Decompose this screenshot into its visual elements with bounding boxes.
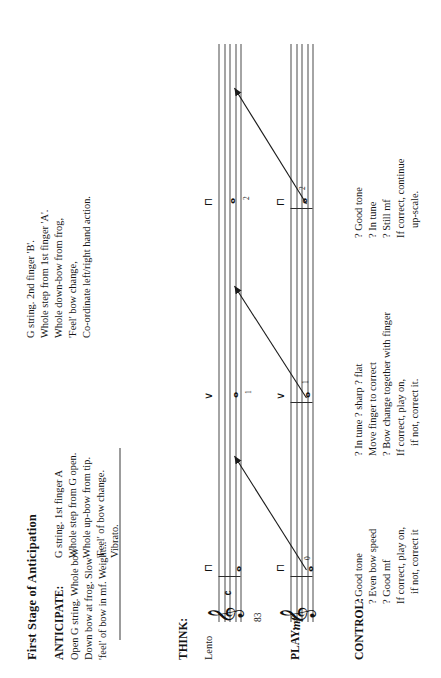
fingering-0: 0: [303, 556, 311, 560]
whole-note-a: 𝅝: [225, 392, 241, 398]
control-g-line-5: if not, correct it: [408, 529, 420, 594]
control-g-line-2: ? Even bow speed: [366, 529, 378, 604]
staff-line: [296, 44, 297, 622]
control-b-line-4: If correct, continue: [394, 159, 406, 238]
whole-note-g: 𝅝: [228, 566, 244, 572]
anticipate-line-3: 'feel' of bow in mf. Weight...: [96, 542, 108, 660]
staff-line: [235, 44, 236, 622]
control-g-line-4: If correct, play on,: [394, 527, 406, 604]
fingering-1: 1: [301, 380, 309, 384]
rotated-sheet: First Stage of Anticipation ANTICIPATE: …: [0, 0, 441, 678]
anticipate-line-1: Open G string. Whole bow: [68, 548, 80, 660]
down-bow-icon: ⊓: [202, 563, 213, 572]
think-a-line-3: Whole up-bow from tip.: [80, 457, 92, 558]
staff-line: [218, 44, 219, 622]
control-g-line-3: ? Good mf: [380, 560, 392, 604]
control-label: CONTROL:: [352, 598, 366, 660]
think-a-line-2: Whole step from G open.: [66, 453, 78, 558]
staff-line: [290, 44, 291, 622]
whole-note-g: 𝅝: [300, 566, 316, 572]
anticipate-label: ANTICIPATE:: [52, 586, 66, 660]
think-a-line-1: G string. 1st finger A: [52, 470, 64, 558]
down-bow-icon: ⊓: [202, 197, 213, 206]
staff-line: [307, 44, 308, 622]
think-b-line-5: Co-ordinate left/right hand action.: [80, 196, 92, 338]
staff-line: [312, 44, 313, 622]
think-a-line-5: Vibrato.: [108, 524, 120, 558]
up-bow-icon: ∨: [202, 392, 213, 400]
think-a-line-4: 'Feel' of bow change.: [94, 470, 106, 558]
fingering-2: 2: [298, 186, 306, 190]
control-b-line-2: ? In tune: [366, 202, 378, 238]
page-title: First Stage of Anticipation: [24, 514, 39, 660]
down-bow-icon: ⊓: [274, 563, 285, 572]
whole-note-a: 𝅝: [297, 392, 313, 398]
anticipate-line-2: Down bow at frog. Slow: [82, 558, 94, 660]
fingering-1: 1: [244, 390, 252, 394]
staff-play: 𝄞 𝅝 0 ⊓ mf 𝅝 1 ∨ 𝅝 2 ⊓: [290, 44, 313, 622]
think-b-line-4: 'Feel' bow change,: [66, 261, 78, 338]
staff-line: [229, 44, 230, 622]
control-a-line-1: ? In tune ? sharp ? flat: [352, 364, 364, 456]
barline: [290, 402, 312, 403]
control-a-line-4: If correct, play on,: [394, 379, 406, 456]
whole-note-b: 𝅝: [294, 198, 310, 204]
page-number: 83: [252, 613, 263, 623]
control-a-line-5: if not, correct it.: [408, 379, 420, 446]
control-b-line-1: ? Good tone: [352, 187, 364, 238]
treble-clef-icon: 𝄞: [281, 606, 311, 624]
staff-line: [301, 44, 302, 622]
down-bow-icon: ⊓: [274, 197, 285, 206]
barline: [290, 208, 312, 209]
play-label: PLAY:: [288, 627, 302, 660]
think-b-line-1: G string. 2nd finger 'B'.: [24, 240, 36, 338]
barline: [218, 576, 240, 577]
treble-clef-icon: 𝄞: [209, 606, 239, 624]
think-b-line-2: Whole step from 1st finger 'A'.: [38, 210, 50, 338]
staff-line: [240, 44, 241, 622]
control-b-line-5: up-scale.: [408, 191, 420, 228]
barline: [290, 576, 312, 577]
common-time-icon: 𝄴: [221, 590, 234, 596]
fingering-2: 2: [242, 196, 250, 200]
whole-note-b: 𝅝: [222, 198, 238, 204]
up-bow-icon: ∨: [274, 392, 285, 400]
control-a-line-2: Move finger to correct: [366, 362, 378, 456]
control-b-line-3: ? Still mf: [380, 199, 392, 238]
think-label: THINK:: [176, 618, 190, 660]
control-a-line-3: ? Bow change together with finger: [380, 312, 392, 456]
think-b-line-3: Whole down-bow from frog,: [52, 218, 64, 338]
document-page: First Stage of Anticipation ANTICIPATE: …: [0, 0, 441, 678]
staff-line: [224, 44, 225, 622]
staff-think: 𝄞 𝄴 𝅝 ⊓ 𝅝 1 ∨ 𝅝 2 ⊓: [218, 44, 241, 622]
control-g-line-1: ? Good tone: [352, 553, 364, 604]
tempo-marking: Lento: [202, 636, 214, 660]
